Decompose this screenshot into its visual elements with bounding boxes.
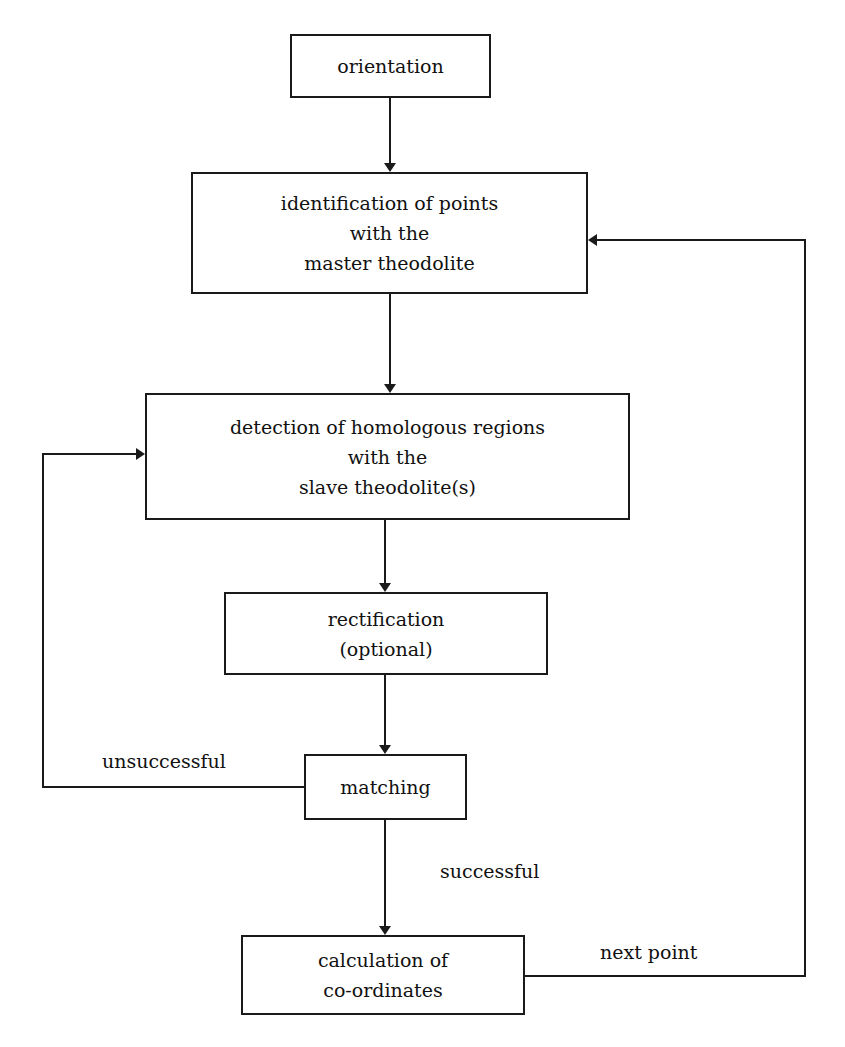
node-matching-text: matching xyxy=(340,772,430,802)
edge-label-next-point: next point xyxy=(600,941,697,963)
node-rectification: rectification (optional) xyxy=(224,592,548,675)
arrowhead-left-icon xyxy=(588,234,597,246)
node-orientation: orientation xyxy=(290,34,491,98)
node-matching: matching xyxy=(304,754,467,820)
node-identification-line1: identification of points xyxy=(281,188,498,218)
node-detection-line2: with the xyxy=(348,442,427,472)
node-calculation-line2: co-ordinates xyxy=(323,975,442,1005)
node-calculation-line1: calculation of xyxy=(318,945,448,975)
arrowhead-right-icon xyxy=(136,448,145,460)
arrowhead-down-icon xyxy=(384,384,396,393)
node-calculation: calculation of co-ordinates xyxy=(241,935,525,1015)
node-detection-line1: detection of homologous regions xyxy=(230,412,545,442)
node-identification-line3: master theodolite xyxy=(304,248,474,278)
node-orientation-text: orientation xyxy=(337,51,443,81)
connector-lines xyxy=(0,0,845,1047)
edge-label-successful: successful xyxy=(440,860,539,882)
arrowhead-down-icon xyxy=(379,583,391,592)
node-rectification-line2: (optional) xyxy=(339,634,432,664)
edge-calculation-identification-loop xyxy=(524,240,805,976)
arrowhead-down-icon xyxy=(384,163,396,172)
arrowhead-down-icon xyxy=(379,926,391,935)
node-identification-line2: with the xyxy=(350,218,429,248)
node-identification: identification of points with the master… xyxy=(191,172,588,294)
node-detection: detection of homologous regions with the… xyxy=(145,393,630,520)
arrowhead-down-icon xyxy=(379,745,391,754)
edge-label-unsuccessful: unsuccessful xyxy=(102,750,226,772)
node-rectification-line1: rectification xyxy=(328,604,445,634)
node-detection-line3: slave theodolite(s) xyxy=(299,472,476,502)
